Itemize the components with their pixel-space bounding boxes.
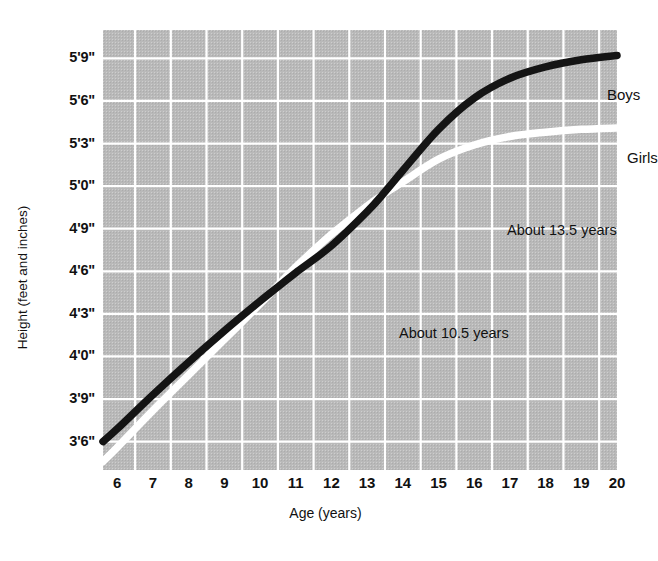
- x-axis-tick: 6: [113, 474, 121, 491]
- x-axis-tick: 12: [323, 474, 340, 491]
- series-label-boys: Boys: [607, 86, 640, 103]
- x-axis-tick: 17: [502, 474, 519, 491]
- plot-area: Boys Girls About 13.5 years About 10.5 y…: [103, 30, 617, 470]
- curve-girls: [103, 128, 617, 462]
- x-axis-tick: 16: [466, 474, 483, 491]
- x-axis-tick: 13: [359, 474, 376, 491]
- x-axis-tick: 19: [573, 474, 590, 491]
- x-axis-tick: 15: [430, 474, 447, 491]
- x-axis-tick: 18: [537, 474, 554, 491]
- y-axis-title: Height (feet and inches): [15, 178, 30, 378]
- y-axis-tick: 5'3": [0, 135, 95, 151]
- annotation-girls-spurt: About 10.5 years: [399, 325, 509, 341]
- y-axis-tick: 3'6": [0, 433, 95, 449]
- y-axis-tick: 5'9": [0, 49, 95, 65]
- y-axis-tick: 3'9": [0, 390, 95, 406]
- series-curves: [103, 30, 617, 470]
- x-axis-tick: 11: [288, 474, 304, 491]
- x-axis-tick: 8: [184, 474, 192, 491]
- x-axis-tick: 7: [149, 474, 157, 491]
- x-axis-title: Age (years): [0, 505, 651, 521]
- x-axis-tick: 10: [252, 474, 269, 491]
- annotation-boys-spurt: About 13.5 years: [507, 222, 617, 238]
- y-axis-tick: 5'6": [0, 92, 95, 108]
- series-label-girls: Girls: [627, 149, 658, 166]
- x-axis-tick: 9: [220, 474, 228, 491]
- x-axis-tick-labels: 67891011121314151617181920: [0, 474, 651, 498]
- x-axis-tick: 20: [609, 474, 626, 491]
- x-axis-tick: 14: [394, 474, 411, 491]
